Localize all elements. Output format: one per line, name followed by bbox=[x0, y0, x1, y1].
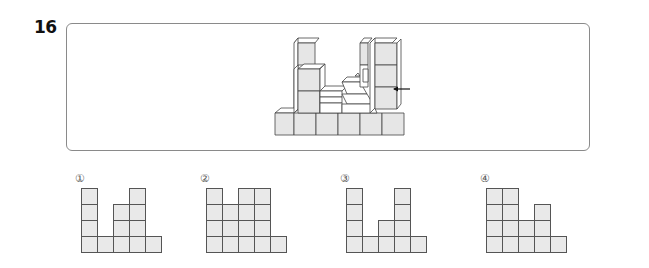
grid-cell bbox=[254, 236, 271, 253]
grid-cell bbox=[346, 188, 363, 205]
grid-cell bbox=[222, 204, 239, 221]
grid-cell bbox=[254, 220, 271, 237]
grid-cell bbox=[206, 236, 223, 253]
grid-cell bbox=[238, 204, 255, 221]
grid-cell bbox=[222, 236, 239, 253]
grid-cell bbox=[97, 236, 114, 253]
grid-cell bbox=[346, 220, 363, 237]
grid-cell bbox=[518, 236, 535, 253]
grid-cell bbox=[113, 204, 130, 221]
grid-cell bbox=[550, 236, 567, 253]
grid-cell bbox=[502, 220, 519, 237]
grid-cell bbox=[362, 236, 379, 253]
grid-cell bbox=[502, 188, 519, 205]
option-label: ④ bbox=[480, 172, 490, 185]
grid-cell bbox=[129, 188, 146, 205]
grid-cell bbox=[486, 204, 503, 221]
grid-cell bbox=[394, 204, 411, 221]
grid-cell bbox=[206, 188, 223, 205]
grid-cell bbox=[81, 220, 98, 237]
grid-cell bbox=[394, 188, 411, 205]
grid-cell bbox=[486, 188, 503, 205]
grid-cell bbox=[502, 236, 519, 253]
grid-cell bbox=[238, 220, 255, 237]
grid-cell bbox=[129, 204, 146, 221]
grid-cell bbox=[410, 236, 427, 253]
grid-cell bbox=[206, 204, 223, 221]
question-number: 16 bbox=[34, 17, 57, 37]
grid-cell bbox=[81, 236, 98, 253]
grid-cell bbox=[486, 236, 503, 253]
grid-cell bbox=[502, 204, 519, 221]
grid-cell bbox=[486, 220, 503, 237]
grid-cell bbox=[113, 220, 130, 237]
grid-cell bbox=[346, 236, 363, 253]
grid-cell bbox=[238, 236, 255, 253]
grid-cell bbox=[81, 204, 98, 221]
grid-cell bbox=[129, 220, 146, 237]
grid-cell bbox=[378, 220, 395, 237]
grid-cell bbox=[238, 188, 255, 205]
grid-cell bbox=[254, 204, 271, 221]
grid-cell bbox=[534, 220, 551, 237]
grid-cell bbox=[534, 204, 551, 221]
grid-cell bbox=[129, 236, 146, 253]
grid-cell bbox=[222, 220, 239, 237]
grid-cell bbox=[270, 236, 287, 253]
grid-cell bbox=[113, 236, 130, 253]
grid-cell bbox=[518, 220, 535, 237]
grid-cell bbox=[394, 236, 411, 253]
grid-cell bbox=[81, 188, 98, 205]
grid-cell bbox=[145, 236, 162, 253]
grid-cell bbox=[394, 220, 411, 237]
figure-box bbox=[66, 23, 590, 151]
option-label: ① bbox=[75, 172, 85, 185]
grid-cell bbox=[206, 220, 223, 237]
option-label: ② bbox=[200, 172, 210, 185]
cube-stack-figure bbox=[67, 24, 591, 152]
grid-cell bbox=[254, 188, 271, 205]
grid-cell bbox=[378, 236, 395, 253]
grid-cell bbox=[346, 204, 363, 221]
option-label: ③ bbox=[340, 172, 350, 185]
grid-cell bbox=[534, 236, 551, 253]
